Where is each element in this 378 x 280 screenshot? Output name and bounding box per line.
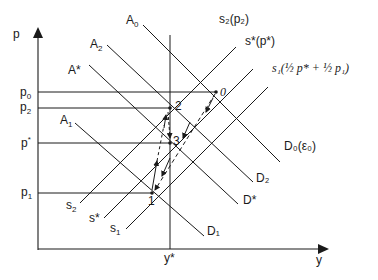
s2-top-label: s₂(p₂): [219, 12, 249, 26]
pstar-label: p*: [21, 135, 31, 150]
D0-label: D₀(ε₀): [284, 139, 316, 153]
Astar-label: A*: [68, 63, 81, 77]
s1-bottom-label: s1: [110, 221, 121, 237]
y-axis-arrow-icon: [33, 27, 43, 38]
path-up-arrow: [164, 115, 166, 128]
point-0: [214, 90, 218, 94]
p0-label: p0: [20, 85, 32, 101]
sstar-bottom-label: s*: [89, 211, 100, 225]
A1-label: A1: [60, 113, 73, 129]
economics-diagram: p y y* p0 p2 p* p1 s2 s* s1 s₂(p₂) s*(p*…: [0, 0, 378, 280]
demand-curve-Astar: [89, 65, 238, 204]
point-1-label: 1: [148, 194, 155, 208]
point-3-label: 3: [173, 134, 180, 148]
Dstar-label: D*: [243, 193, 257, 207]
path-1-to-2: [152, 161, 157, 190]
p2-label: p2: [20, 100, 32, 116]
price-lines: [38, 92, 216, 193]
D2-label: D₂: [256, 171, 270, 185]
supply-curve-s2: [80, 47, 236, 203]
sstar-top-label: s*(p*): [245, 34, 275, 48]
point-2-label: 2: [175, 99, 182, 113]
point-3: [168, 141, 172, 145]
y-axis-label: p: [13, 27, 20, 41]
A2-label: A2: [90, 37, 103, 53]
s2-bottom-label: s2: [66, 198, 77, 214]
point-2: [168, 106, 172, 110]
point-0-label: 0: [220, 85, 226, 99]
A0-label: A0: [126, 13, 139, 29]
D1-label: D₁: [207, 224, 220, 238]
price-labels: p0 p2 p* p1: [20, 85, 33, 201]
p1-label: p1: [21, 185, 33, 201]
s1-top-label: s₁(½ p* + ½ p₁): [272, 61, 349, 75]
x-axis-label: y: [316, 253, 322, 267]
y-star-label: y*: [164, 251, 175, 265]
